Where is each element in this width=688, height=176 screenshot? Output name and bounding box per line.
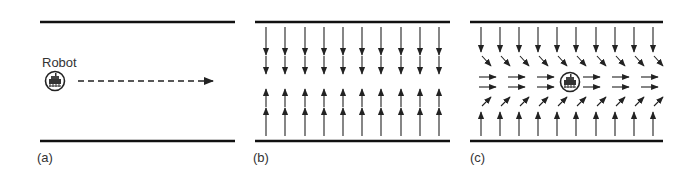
field-arrow	[558, 97, 567, 106]
panel-label-a: (a)	[37, 150, 53, 165]
field-arrow	[635, 56, 644, 66]
field-arrow	[654, 97, 663, 106]
field-arrow	[520, 97, 529, 106]
field-arrow	[577, 97, 586, 106]
robot-icon	[46, 72, 65, 91]
repulsive-field-arrows	[266, 27, 439, 136]
field-arrow	[654, 56, 663, 66]
panel-label-c: (c)	[470, 150, 485, 165]
field-arrow	[482, 97, 491, 106]
panel-c: (c)	[470, 22, 663, 165]
field-arrow	[539, 97, 548, 106]
field-arrow	[520, 56, 529, 66]
field-arrow	[558, 56, 567, 66]
field-arrow	[616, 97, 625, 106]
field-arrow	[616, 56, 625, 66]
field-arrow	[635, 97, 644, 106]
field-arrow	[482, 56, 491, 66]
potential-field-diagram: Robot (a) (b) (c)	[0, 0, 688, 176]
field-arrow	[597, 56, 606, 66]
field-arrow	[539, 56, 548, 66]
panel-a: Robot (a)	[37, 22, 235, 165]
robot-label: Robot	[42, 55, 77, 70]
field-arrow	[597, 97, 606, 106]
robot-icon	[561, 73, 580, 92]
panel-label-b: (b)	[253, 150, 269, 165]
field-arrow	[501, 56, 510, 66]
panel-b: (b)	[253, 22, 450, 165]
field-arrow	[577, 56, 586, 66]
field-arrow	[501, 97, 510, 106]
